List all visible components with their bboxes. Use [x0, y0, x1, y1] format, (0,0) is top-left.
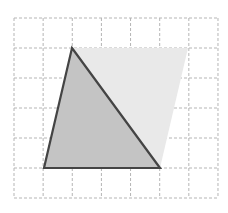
geometry-figure-svg — [0, 0, 228, 213]
figure-canvas — [0, 0, 228, 213]
